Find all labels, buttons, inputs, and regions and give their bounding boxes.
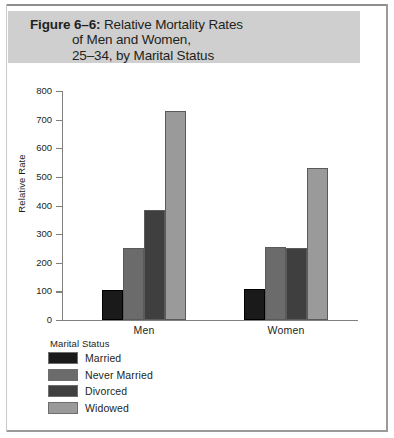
legend-label: Never Married [85,369,153,381]
legend-swatch [48,352,78,364]
legend-swatch [48,402,78,414]
bars-layer [62,91,358,320]
legend-title: Marital Status [48,338,153,349]
y-tick-label: 800 [12,85,52,96]
y-tick-label: 0 [12,314,52,325]
group-label-men: Men [82,324,206,336]
y-tick-label: 600 [12,142,52,153]
legend: Marital Status MarriedNever MarriedDivor… [48,338,153,417]
y-tick-label: 500 [12,171,52,182]
y-tick-label: 400 [12,200,52,211]
bar [286,248,307,320]
y-tick-label: 200 [12,257,52,268]
y-tick [56,320,62,321]
bar [307,168,328,320]
figure-container: Figure 6–6: Relative Mortality Rates of … [0,0,394,438]
legend-item: Never Married [48,368,153,382]
bar [123,248,144,320]
legend-swatch [48,385,78,397]
y-tick-label: 100 [12,285,52,296]
legend-label: Widowed [85,402,129,414]
bar [244,289,265,320]
bar [165,111,186,320]
y-tick-label: 300 [12,228,52,239]
legend-rows: MarriedNever MarriedDivorcedWidowed [48,351,153,415]
legend-label: Divorced [85,385,127,397]
bar [102,290,123,320]
legend-item: Married [48,351,153,365]
legend-item: Divorced [48,384,153,398]
legend-item: Widowed [48,401,153,415]
y-tick-label: 700 [12,114,52,125]
legend-label: Married [85,352,121,364]
x-axis-line [62,320,358,321]
group-label-women: Women [224,324,348,336]
legend-swatch [48,369,78,381]
bar [144,210,165,320]
bar [265,247,286,320]
